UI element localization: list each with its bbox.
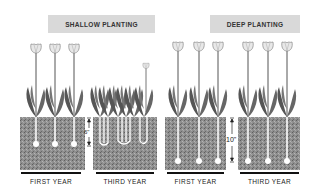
depth-label-deep: 10" [226,136,236,143]
label-deep-first-year: FIRST YEAR [167,178,224,185]
label-shallow-first-year: FIRST YEAR [21,178,81,185]
baseline-shallow-third [96,172,154,174]
label-deep-third-year: THIRD YEAR [240,178,299,185]
label-shallow-third-year: THIRD YEAR [96,178,154,185]
tulip-illustration [0,0,315,194]
depth-label-shallow: 6" [84,129,89,135]
baseline-deep-first [167,172,224,174]
baseline-shallow-first [21,172,81,174]
baseline-deep-third [240,172,299,174]
